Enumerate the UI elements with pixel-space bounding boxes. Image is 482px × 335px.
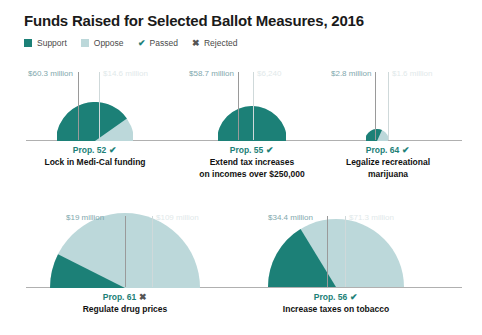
leader-line-support-prop-56 xyxy=(327,216,328,287)
chart-page: Funds Raised for Selected Ballot Measure… xyxy=(0,0,482,335)
outcome-icon-prop-64: ✔ xyxy=(402,145,410,155)
semicircle-prop-52 xyxy=(57,102,133,141)
leader-line-support-prop-52 xyxy=(78,72,79,140)
legend-label-rejected: Rejected xyxy=(204,38,238,48)
wedge-support xyxy=(218,106,286,141)
caption-prop-56: Prop. 56✔ Increase taxes on tobacco xyxy=(236,292,436,315)
value-label-support-prop-64: $2.8 million xyxy=(331,70,371,78)
prop-number-prop-52: Prop. 52 xyxy=(73,145,107,155)
value-label-oppose-prop-55: $6,240 xyxy=(257,70,281,78)
semicircle-svg-prop-64 xyxy=(366,129,388,141)
value-label-support-prop-55: $58.7 million xyxy=(189,70,234,78)
value-label-oppose-prop-61: $109 million xyxy=(156,214,199,222)
prop-title-prop-64: Prop. 64✔ xyxy=(288,145,482,156)
legend-item-oppose: Oppose xyxy=(81,38,124,48)
prop-desc-line1-prop-56: Increase taxes on tobacco xyxy=(236,304,436,315)
prop-number-prop-56: Prop. 56 xyxy=(314,292,348,302)
leader-line-oppose-prop-55 xyxy=(253,72,254,140)
caption-prop-61: Prop. 61✖ Regulate drug prices xyxy=(25,292,225,315)
leader-line-oppose-prop-56 xyxy=(345,216,346,287)
prop-desc-line1-prop-64: Legalize recreational xyxy=(288,157,482,168)
leader-line-support-prop-55 xyxy=(238,72,239,140)
prop-desc-line2-prop-64: marijuana xyxy=(288,169,482,180)
semicircle-svg-prop-52 xyxy=(57,102,133,141)
prop-number-prop-64: Prop. 64 xyxy=(366,145,400,155)
legend-item-rejected: ✖ Rejected xyxy=(192,38,238,48)
leader-line-oppose-prop-64 xyxy=(388,72,389,140)
x-icon: ✖ xyxy=(192,39,200,48)
legend-item-passed: ✔ Passed xyxy=(138,38,178,48)
check-icon: ✔ xyxy=(138,39,146,48)
outcome-icon-prop-61: ✖ xyxy=(139,292,147,302)
semicircle-svg-prop-56 xyxy=(268,219,404,287)
leader-line-support-prop-61 xyxy=(125,216,126,287)
leader-line-support-prop-64 xyxy=(375,72,376,140)
value-label-oppose-prop-64: $1.6 million xyxy=(392,70,432,78)
semicircle-prop-56 xyxy=(268,219,404,287)
value-label-support-prop-52: $60.3 million xyxy=(28,70,73,78)
value-label-oppose-prop-56: $71.3 million xyxy=(349,214,394,222)
leader-line-oppose-prop-52 xyxy=(99,72,100,140)
legend: Support Oppose ✔ Passed ✖ Rejected xyxy=(24,38,251,48)
prop-desc-line1-prop-61: Regulate drug prices xyxy=(25,304,225,315)
oppose-swatch-icon xyxy=(81,39,89,47)
prop-title-prop-56: Prop. 56✔ xyxy=(236,292,436,303)
page-title: Funds Raised for Selected Ballot Measure… xyxy=(24,12,364,29)
leader-line-oppose-prop-61 xyxy=(152,216,153,287)
legend-label-oppose: Oppose xyxy=(94,38,124,48)
semicircle-svg-prop-55 xyxy=(218,106,286,141)
prop-number-prop-61: Prop. 61 xyxy=(103,292,137,302)
caption-prop-64: Prop. 64✔ Legalize recreational marijuan… xyxy=(288,145,482,180)
outcome-icon-prop-56: ✔ xyxy=(350,292,358,302)
value-label-support-prop-56: $34.4 million xyxy=(268,214,313,222)
semicircle-prop-64 xyxy=(366,129,388,141)
outcome-icon-prop-55: ✔ xyxy=(266,145,274,155)
outcome-icon-prop-52: ✔ xyxy=(109,145,117,155)
legend-label-passed: Passed xyxy=(150,38,178,48)
prop-number-prop-55: Prop. 55 xyxy=(230,145,264,155)
value-label-support-prop-61: $19 million xyxy=(66,214,104,222)
legend-item-support: Support xyxy=(24,38,67,48)
legend-label-support: Support xyxy=(37,38,67,48)
prop-title-prop-61: Prop. 61✖ xyxy=(25,292,225,303)
value-label-oppose-prop-52: $14.6 million xyxy=(103,70,148,78)
semicircle-prop-55 xyxy=(218,106,286,141)
support-swatch-icon xyxy=(24,39,32,47)
